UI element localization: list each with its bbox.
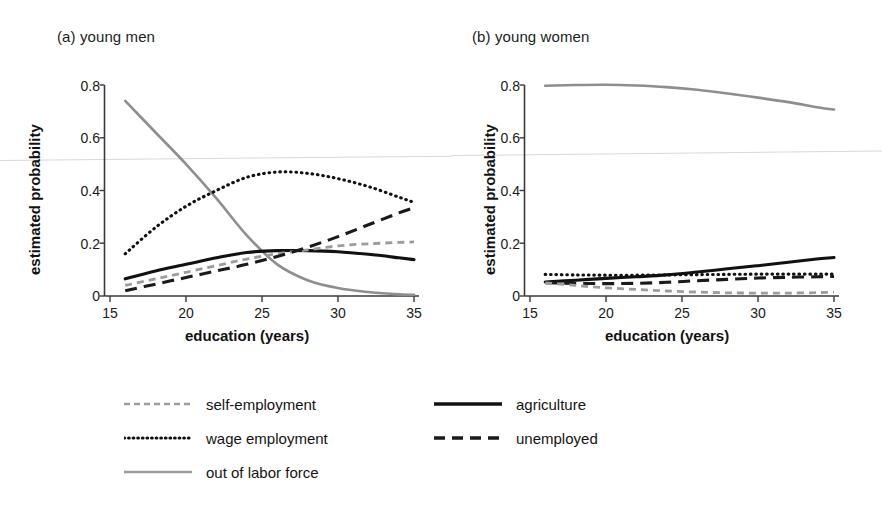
panel-b-axis-lines: [525, 85, 840, 296]
legend: self-employment wage employment out of l…: [124, 394, 744, 494]
legend-swatch-unemployed-dashed-line-icon: [434, 431, 502, 445]
legend-swatch-wage-employment-dotted-line-icon: [124, 431, 192, 445]
legend-swatch-out-of-labor-force-solid-line-icon: [124, 465, 192, 479]
legend-label-wage-employment: wage employment: [206, 430, 328, 447]
panel-a-x-axis-title: education (years): [185, 327, 309, 344]
legend-item-self-employment: self-employment: [124, 394, 316, 414]
panel-a-series-self-employment: [125, 242, 414, 286]
panel-a-title: (a) young men: [57, 28, 155, 45]
panel-b-ytick-0.8: 0.8: [478, 78, 520, 94]
panel-a-axis-ticks: [100, 85, 415, 302]
panel-b-ytick-0.2: 0.2: [478, 236, 520, 252]
panel-a-ytick-0.6: 0.6: [58, 130, 100, 146]
panel-a-ytick-0.4: 0.4: [58, 183, 100, 199]
legend-label-agriculture: agriculture: [516, 396, 586, 413]
panel-b-series-agriculture: [545, 257, 834, 282]
legend-item-agriculture: agriculture: [434, 394, 586, 414]
panel-a-ytick-0: 0: [58, 288, 100, 304]
panel-b-ytick-0.4: 0.4: [478, 183, 520, 199]
panel-a-series-out-of-labor-force: [125, 101, 414, 295]
panel-b-axis-ticks: [520, 85, 835, 302]
panel-a-series-wage-employment: [125, 172, 414, 254]
panel-b-ytick-0.6: 0.6: [478, 130, 520, 146]
panel-b-ytick-0: 0: [478, 288, 520, 304]
panel-a-y-axis-title: estimated probability: [26, 124, 43, 275]
panel-b-y-axis-title: estimated probability: [481, 124, 498, 275]
panel-b-title: (b) young women: [472, 28, 589, 45]
legend-swatch-agriculture-solid-line-icon: [434, 397, 502, 411]
panel-a-series-unemployed: [125, 208, 414, 291]
legend-label-unemployed: unemployed: [516, 430, 598, 447]
legend-item-out-of-labor-force: out of labor force: [124, 462, 319, 482]
panel-a-ytick-0.2: 0.2: [58, 236, 100, 252]
panel-a-plot: [95, 72, 455, 312]
panel-a-axis-lines: [105, 85, 420, 296]
panel-b-x-axis-title: education (years): [605, 327, 729, 344]
legend-swatch-self-employment-dashed-line-icon: [124, 397, 192, 411]
panel-b-plot: [515, 72, 875, 312]
legend-label-out-of-labor-force: out of labor force: [206, 464, 319, 481]
legend-item-unemployed: unemployed: [434, 428, 598, 448]
panel-b-series-out-of-labor-force: [545, 85, 834, 110]
legend-item-wage-employment: wage employment: [124, 428, 328, 448]
legend-label-self-employment: self-employment: [206, 396, 316, 413]
figure-container: (a) young men estimated probability educ…: [0, 0, 882, 511]
panel-a-ytick-0.8: 0.8: [58, 78, 100, 94]
